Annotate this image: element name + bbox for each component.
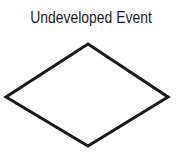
undeveloped-event-diamond <box>0 0 182 157</box>
